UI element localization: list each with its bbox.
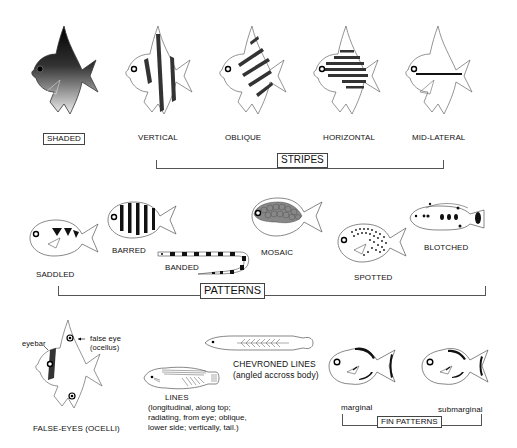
vertical-stripes-fish-icon	[118, 22, 198, 122]
marginal-label: marginal	[341, 403, 372, 412]
saddled-label: SADDLED	[36, 270, 75, 279]
submarginal-fin-fish-icon	[418, 344, 494, 390]
mosaic-fish-icon	[248, 196, 326, 242]
fin-patterns-group-label: FIN PATTERNS	[377, 416, 442, 428]
lines-label: LINES	[165, 393, 189, 402]
lines-fish-icon	[142, 362, 224, 392]
blotched-fish-icon	[408, 202, 490, 234]
spotted-fish-icon	[334, 220, 410, 266]
lines-desc-3: lower side; vertically, tail.)	[148, 423, 239, 433]
banded-label: BANDED	[165, 263, 199, 272]
marginal-fin-fish-icon	[325, 344, 401, 390]
shaded-label: SHADED	[43, 133, 85, 145]
oblique-stripes-fish-icon	[212, 22, 292, 122]
spotted-label: SPOTTED	[354, 273, 392, 282]
oblique-label: OBLIQUE	[225, 133, 261, 142]
chevroned-lines-fish-icon	[203, 332, 315, 354]
lines-desc-2: radiating, from eye; oblique,	[148, 413, 247, 423]
lines-desc-1: (longitudinal, along top;	[148, 403, 231, 413]
barred-fish-icon	[104, 200, 180, 244]
false-eye-callout-2: (ocellus)	[90, 343, 119, 352]
eyebar-callout: eyebar	[22, 339, 46, 348]
patterns-bracket	[58, 286, 486, 296]
shaded-fish-icon	[24, 22, 104, 122]
horizontal-label: HORIZONTAL	[323, 133, 375, 142]
false-eyes-label: FALSE-EYES (OCELLI)	[33, 424, 120, 433]
blotched-label: BLOTCHED	[424, 243, 468, 252]
mid-lateral-stripe-fish-icon	[398, 22, 478, 122]
false-eyes-fish-icon	[28, 316, 108, 416]
horizontal-stripes-fish-icon	[306, 22, 386, 122]
mosaic-label: MOSAIC	[261, 248, 293, 257]
chevroned-label: CHEVRONED LINES	[233, 359, 316, 369]
patterns-group-label: PATTERNS	[200, 283, 265, 299]
submarginal-label: submarginal	[438, 405, 483, 414]
vertical-label: VERTICAL	[138, 133, 178, 142]
saddled-fish-icon	[26, 216, 102, 260]
chevroned-desc: (angled accross body)	[233, 370, 319, 380]
mid-lateral-label: MID-LATERAL	[412, 133, 465, 142]
stripes-group-label: STRIPES	[277, 153, 328, 168]
barred-label: BARRED	[112, 246, 146, 255]
false-eye-callout-1: false eye	[90, 334, 121, 343]
